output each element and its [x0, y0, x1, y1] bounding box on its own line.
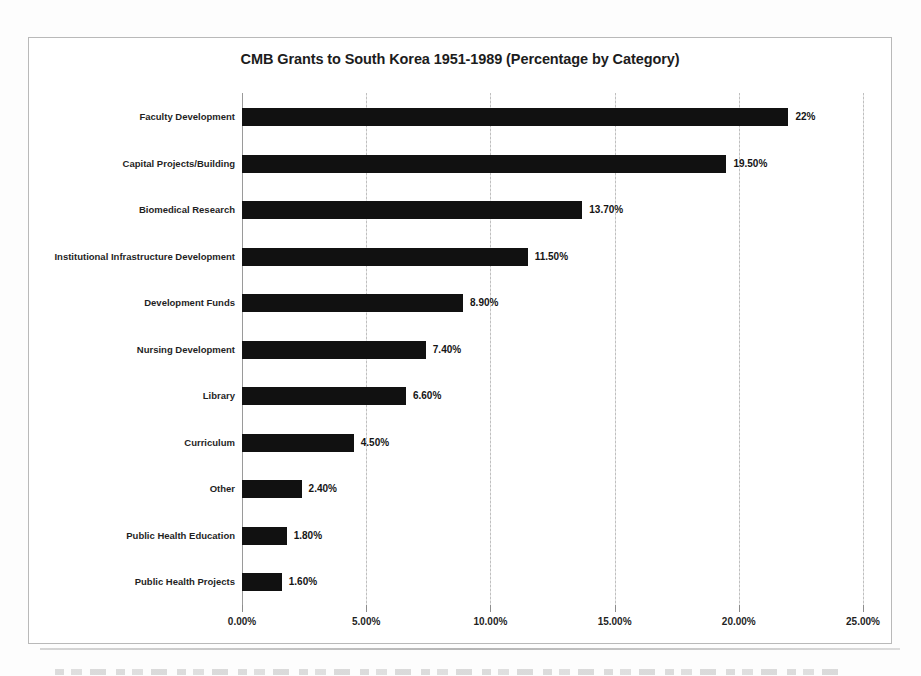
bar-value-label: 22%: [788, 108, 815, 126]
scan-artifact-ghost-text: [55, 669, 845, 675]
chart-frame: CMB Grants to South Korea 1951-1989 (Per…: [28, 37, 892, 644]
x-tick-label: 15.00%: [598, 616, 632, 627]
category-label: Library: [203, 387, 235, 405]
bar-row: Library6.60%: [242, 372, 863, 419]
bar[interactable]: [242, 341, 426, 359]
x-axis: 0.00%5.00%10.00%15.00%20.00%25.00%: [242, 605, 863, 645]
gridline-25: [863, 93, 864, 605]
x-tick-mark: [366, 605, 367, 612]
bar-value-label: 2.40%: [302, 480, 337, 498]
bar-value-label: 1.80%: [287, 527, 322, 545]
category-label: Institutional Infrastructure Development: [54, 248, 235, 266]
x-tick-label: 10.00%: [473, 616, 507, 627]
bar-row: Other2.40%: [242, 465, 863, 512]
bar[interactable]: [242, 434, 354, 452]
bar-value-label: 4.50%: [354, 434, 389, 452]
category-label: Faculty Development: [139, 108, 235, 126]
bar[interactable]: [242, 294, 463, 312]
category-label: Biomedical Research: [139, 201, 235, 219]
bar-row: Development Funds8.90%: [242, 279, 863, 326]
category-label: Capital Projects/Building: [123, 155, 235, 173]
bar-row: Nursing Development7.40%: [242, 326, 863, 373]
x-tick-mark: [739, 605, 740, 612]
bar-row: Capital Projects/Building19.50%: [242, 140, 863, 187]
bar-row: Biomedical Research13.70%: [242, 186, 863, 233]
bar-value-label: 13.70%: [582, 201, 623, 219]
bar-row: Public Health Education1.80%: [242, 512, 863, 559]
x-tick-label: 0.00%: [228, 616, 256, 627]
x-tick-mark: [863, 605, 864, 612]
bar[interactable]: [242, 201, 582, 219]
bar-value-label: 6.60%: [406, 387, 441, 405]
bar-value-label: 8.90%: [463, 294, 498, 312]
bar-value-label: 7.40%: [426, 341, 461, 359]
bar-row: Institutional Infrastructure Development…: [242, 233, 863, 280]
bar[interactable]: [242, 248, 528, 266]
x-tick-mark: [615, 605, 616, 612]
category-label: Nursing Development: [137, 341, 235, 359]
bar[interactable]: [242, 573, 282, 591]
bar-row: Curriculum4.50%: [242, 419, 863, 466]
bar-value-label: 1.60%: [282, 573, 317, 591]
category-label: Development Funds: [144, 294, 235, 312]
x-tick-mark: [242, 605, 243, 612]
x-tick-label: 20.00%: [722, 616, 756, 627]
category-label: Other: [210, 480, 235, 498]
category-label: Curriculum: [184, 434, 235, 452]
bar[interactable]: [242, 387, 406, 405]
chart-title: CMB Grants to South Korea 1951-1989 (Per…: [29, 51, 891, 67]
bar-row: Faculty Development22%: [242, 93, 863, 140]
category-label: Public Health Education: [126, 527, 235, 545]
bar[interactable]: [242, 527, 287, 545]
bar-value-label: 19.50%: [726, 155, 767, 173]
x-tick-label: 25.00%: [846, 616, 880, 627]
plot-area: Faculty Development22%Capital Projects/B…: [242, 93, 863, 605]
category-label: Public Health Projects: [135, 573, 235, 591]
x-tick-mark: [490, 605, 491, 612]
bar[interactable]: [242, 480, 302, 498]
x-tick-label: 5.00%: [352, 616, 380, 627]
bar[interactable]: [242, 155, 726, 173]
scan-artifact-rule: [40, 648, 900, 650]
bar[interactable]: [242, 108, 788, 126]
bar-value-label: 11.50%: [528, 248, 568, 266]
bar-row: Public Health Projects1.60%: [242, 558, 863, 605]
